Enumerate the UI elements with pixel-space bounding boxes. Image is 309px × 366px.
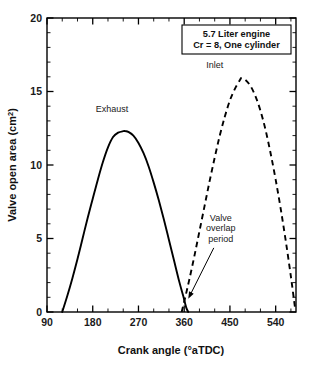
annotation-line-3: period	[208, 234, 233, 244]
exhaust-series-label: Exhaust	[96, 104, 129, 114]
y-axis-title-group: Valve open area (cm2)	[6, 108, 19, 222]
engine-info-line-1: 5.7 Liter engine	[203, 29, 270, 39]
x-tick-label: 450	[221, 316, 239, 328]
series-inline-labels: Exhaust Inlet	[96, 60, 224, 114]
annotation-arrowhead-icon	[188, 291, 193, 298]
x-tick-label: 90	[41, 316, 53, 328]
exhaust-curve	[62, 131, 188, 312]
y-axis-title-tail: )	[6, 108, 18, 112]
x-tick-label: 360	[175, 316, 193, 328]
y-tick-label: 15	[30, 85, 42, 97]
annotation-line-2: overlap	[206, 223, 236, 233]
x-axis-title: Crank angle (°aTDC)	[118, 344, 225, 356]
y-tick-label: 0	[36, 306, 42, 318]
y-tick-label: 10	[30, 159, 42, 171]
valve-open-area-chart: 9018027036045054005101520 Crank angle (°…	[0, 0, 309, 366]
tick-labels: 9018027036045054005101520	[30, 12, 284, 328]
engine-info-box: 5.7 Liter engine Cr = 8, One cylinder	[182, 25, 291, 54]
inlet-series-label: Inlet	[206, 60, 224, 70]
y-tick-label: 5	[36, 232, 42, 244]
x-tick-label: 180	[84, 316, 102, 328]
y-axis-title: Valve open area (cm2)	[6, 108, 19, 222]
annotation-line-1: Valve	[210, 213, 232, 223]
figure-container: 9018027036045054005101520 Crank angle (°…	[0, 0, 309, 366]
x-tick-label: 540	[267, 316, 285, 328]
engine-info-line-2: Cr = 8, One cylinder	[193, 40, 280, 50]
axis-ticks	[47, 18, 296, 312]
y-tick-label: 20	[30, 12, 42, 24]
y-axis-title-base: Valve open area (cm	[6, 116, 18, 222]
x-tick-label: 270	[130, 316, 148, 328]
plot-frame	[47, 18, 296, 312]
